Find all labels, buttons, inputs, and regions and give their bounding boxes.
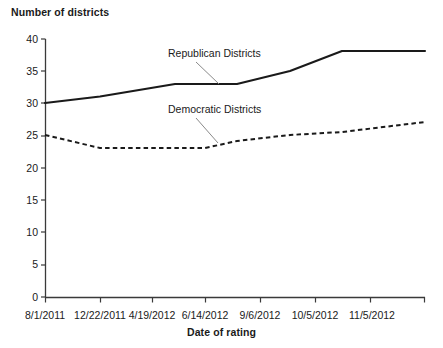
leader-line-republican (196, 62, 219, 84)
chart-canvas (0, 0, 443, 348)
series-line-democratic (45, 122, 425, 148)
leader-line-democratic (196, 118, 218, 143)
line-chart: Number of districts 40 35 30 25 20 15 10… (0, 0, 443, 348)
y-tick-marks (41, 39, 46, 297)
x-axis-title: Date of rating (0, 326, 443, 338)
series-line-republican (45, 51, 425, 103)
